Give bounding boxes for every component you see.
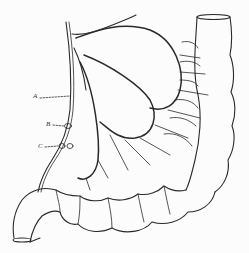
label-c: C xyxy=(38,142,43,150)
colon-opening-bottom xyxy=(13,238,31,242)
colon-outer-wall xyxy=(215,17,235,192)
label-b: B xyxy=(46,120,50,128)
main-vessel xyxy=(38,22,71,192)
colon-drawing xyxy=(0,0,249,253)
label-a: A xyxy=(33,92,37,100)
anatomical-figure: A B C xyxy=(0,0,249,253)
colon-upper-wall xyxy=(13,186,186,238)
colon-opening-top xyxy=(197,15,230,20)
